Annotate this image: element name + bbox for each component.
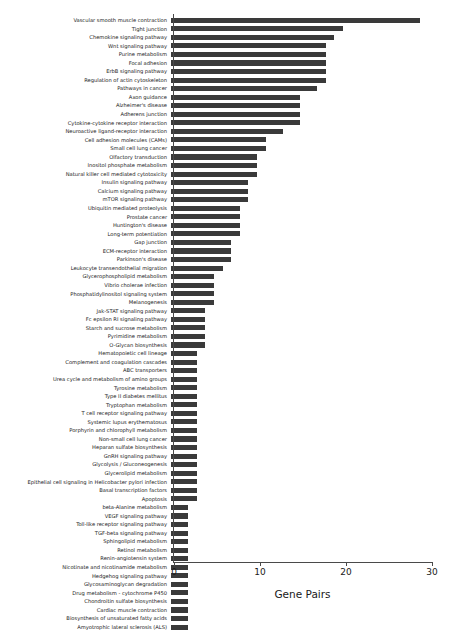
bar-row-label: Neuroactive ligand-receptor interaction [0,127,170,136]
bar [171,291,214,296]
x-tick [260,562,261,566]
bar-row: Ubiquitin mediated proteolysis [0,204,458,213]
bar-row-label: Cell adhesion molecules (CAMs) [0,136,170,145]
bar-row: Hedgehog signaling pathway [0,572,458,581]
bar-row-label: Tyrosine metabolism [0,384,170,393]
bar [171,240,231,245]
bar [171,402,197,407]
x-tick [174,562,175,566]
bar [171,206,240,211]
bar-track [170,623,458,631]
bar-track [170,144,458,153]
bar-track [170,50,458,59]
bar-row-label: Hedgehog signaling pathway [0,572,170,581]
bar-track [170,255,458,264]
bar-row-label: Drug metabolism - cytochrome P450 [0,589,170,598]
bar-row-label: Basal transcription factors [0,486,170,495]
bar-row: mTOR signaling pathway [0,195,458,204]
bar-track [170,349,458,358]
bar [171,616,188,621]
bar-row-label: Prostate cancer [0,213,170,222]
bar-row: T cell receptor signaling pathway [0,409,458,418]
bar-row: Starch and sucrose metabolism [0,324,458,333]
x-axis-line [173,562,432,563]
bar-track [170,221,458,230]
bar-track [170,76,458,85]
bar-track [170,426,458,435]
bar-track [170,392,458,401]
bar-track [170,452,458,461]
bar-row: Vascular smooth muscle contraction [0,16,458,25]
bar-row: Nicotinate and nicotinamide metabolism [0,563,458,572]
bar-track [170,384,458,393]
bar-track [170,25,458,34]
bar-row-label: ECM-receptor interaction [0,247,170,256]
bar-row: Epithelial cell signaling in Helicobacte… [0,478,458,487]
bar-row: Regulation of actin cytoskeleton [0,76,458,85]
bar [171,163,257,168]
bar-track [170,401,458,410]
bar [171,462,197,467]
bar [171,180,248,185]
bar [171,69,326,74]
bar-track [170,409,458,418]
bar-track [170,512,458,521]
bar-row-label: Alzheimer's disease [0,101,170,110]
bar [171,35,334,40]
bar-row: Heparan sulfate biosynthesis [0,443,458,452]
bar-row-label: mTOR signaling pathway [0,195,170,204]
bar-row-label: Non-small cell lung cancer [0,435,170,444]
bar-row: Pathways in cancer [0,84,458,93]
bar-row: Tyrosine metabolism [0,384,458,393]
bar-row: Purine metabolism [0,50,458,59]
bar-track [170,315,458,324]
bar [171,248,231,253]
bar-row: Calcium signaling pathway [0,187,458,196]
bar-row-label: Pathways in cancer [0,84,170,93]
bar [171,411,197,416]
bar-row-label: T cell receptor signaling pathway [0,409,170,418]
bar-track [170,486,458,495]
bar-row: O-Glycan biosynthesis [0,341,458,350]
bar-track [170,366,458,375]
bar-track [170,443,458,452]
bar-track [170,418,458,427]
bar [171,112,300,117]
bar-row-label: Chemokine signaling pathway [0,33,170,42]
bar-track [170,127,458,136]
bar-row: Glycolysis / Gluconeogenesis [0,460,458,469]
bar-row-label: Chondroitin sulfate biosynthesis [0,597,170,606]
bar-row: ABC transporters [0,366,458,375]
bar-row-label: Apoptosis [0,495,170,504]
bar-row-label: Small cell lung cancer [0,144,170,153]
bar [171,479,197,484]
bar-track [170,42,458,51]
bar [171,120,300,125]
bar [171,214,240,219]
bar-track [170,195,458,204]
bar-row: TGF-beta signaling pathway [0,529,458,538]
bar-track [170,247,458,256]
bar-row: Porphyrin and chlorophyll metabolism [0,426,458,435]
bar-row: Cardiac muscle contraction [0,606,458,615]
bar-row-label: Inositol phosphate metabolism [0,161,170,170]
bar-track [170,67,458,76]
bar-row-label: Type II diabetes mellitus [0,392,170,401]
bar-row-label: Adherens junction [0,110,170,119]
bar-row-label: Calcium signaling pathway [0,187,170,196]
bar-row-label: Tryptophan metabolism [0,401,170,410]
bar-row: Complement and coagulation cascades [0,358,458,367]
x-tick-label: 0 [171,567,177,577]
bar-row: Tryptophan metabolism [0,401,458,410]
bar [171,95,300,100]
bar-row-label: Renin-angiotensin system [0,554,170,563]
bar-track [170,93,458,102]
bar-rows-container: Vascular smooth muscle contractionTight … [0,16,458,631]
bar [171,189,248,194]
bar-track [170,375,458,384]
bar-row: Basal transcription factors [0,486,458,495]
bar [171,146,266,151]
bar-row: Sphingolipid metabolism [0,537,458,546]
bar-row: Hematopoietic cell lineage [0,349,458,358]
bar [171,625,188,630]
